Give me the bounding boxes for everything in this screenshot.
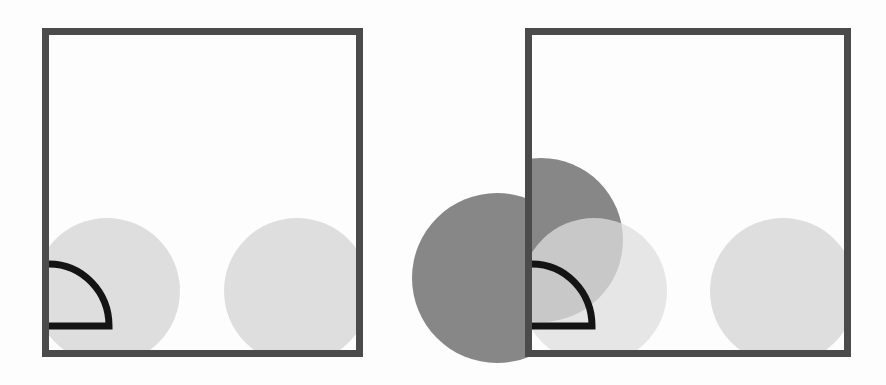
diagram-svg [0, 0, 886, 385]
light-circle [224, 218, 370, 364]
light-circle-overlap [521, 218, 667, 364]
panel-right [412, 32, 856, 365]
light-circle [34, 218, 180, 364]
diagram-canvas [0, 0, 886, 385]
panel-left [34, 32, 370, 365]
light-circle [710, 218, 856, 364]
panel-left-contents [34, 218, 370, 364]
